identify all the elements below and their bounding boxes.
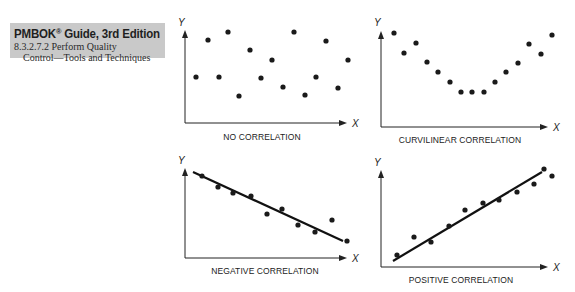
data-point	[205, 37, 210, 42]
data-point	[323, 38, 328, 43]
data-point	[496, 197, 501, 202]
data-point	[335, 85, 340, 90]
y-axis-arrow-icon	[182, 168, 188, 176]
data-point	[401, 50, 406, 55]
scatter-plot-negative-correlation: YXNEGATIVE CORRELATION	[178, 155, 359, 276]
data-point	[280, 84, 285, 89]
x-axis-label: X	[351, 253, 359, 264]
data-point	[313, 74, 318, 79]
plot-caption: NO CORRELATION	[223, 132, 300, 142]
data-point	[435, 69, 440, 74]
data-point	[258, 75, 263, 80]
data-point	[215, 184, 220, 189]
data-point	[538, 51, 543, 56]
data-point	[225, 29, 230, 34]
data-point	[291, 29, 296, 34]
y-axis-label: Y	[178, 155, 186, 166]
data-point	[469, 89, 474, 94]
x-axis-arrow-icon	[540, 124, 548, 130]
data-point	[462, 207, 467, 212]
data-point	[302, 92, 307, 97]
data-point	[193, 74, 198, 79]
data-point	[514, 189, 519, 194]
y-axis-arrow-icon	[378, 31, 384, 39]
data-point	[230, 190, 235, 195]
data-point	[199, 173, 204, 178]
plot-caption: CURVILINEAR CORRELATION	[399, 135, 521, 145]
plot-caption: NEGATIVE CORRELATION	[211, 266, 318, 276]
data-point	[480, 200, 485, 205]
data-point	[394, 252, 399, 257]
data-point	[312, 229, 317, 234]
data-point	[295, 222, 300, 227]
trend-line	[393, 172, 542, 261]
data-point	[411, 234, 416, 239]
plot-caption: POSITIVE CORRELATION	[409, 275, 513, 285]
data-point	[481, 89, 486, 94]
data-point	[264, 211, 269, 216]
data-point	[447, 79, 452, 84]
data-point	[549, 173, 554, 178]
scatter-diagrams: YXNO CORRELATIONYXCURVILINEAR CORRELATIO…	[0, 0, 575, 292]
data-point	[269, 57, 274, 62]
data-point	[247, 47, 252, 52]
data-point	[248, 193, 253, 198]
data-point	[391, 30, 396, 35]
data-point	[329, 217, 334, 222]
scatter-plot-positive-correlation: YXPOSITIVE CORRELATION	[374, 157, 560, 285]
y-axis-label: Y	[374, 157, 382, 168]
data-point	[515, 60, 520, 65]
data-point	[458, 89, 463, 94]
y-axis-label: Y	[374, 17, 382, 28]
data-point	[428, 239, 433, 244]
x-axis-arrow-icon	[339, 120, 347, 126]
y-axis-arrow-icon	[378, 170, 384, 178]
data-point	[236, 93, 241, 98]
x-axis-arrow-icon	[339, 255, 347, 261]
y-axis-arrow-icon	[182, 30, 188, 38]
data-point	[446, 223, 451, 228]
scatter-plot-no-correlation: YXNO CORRELATION	[178, 17, 359, 142]
data-point	[531, 181, 536, 186]
trend-line	[193, 172, 343, 241]
data-point	[526, 41, 531, 46]
y-axis-label: Y	[178, 17, 186, 28]
x-axis-label: X	[351, 118, 359, 129]
data-point	[549, 32, 554, 37]
data-point	[492, 79, 497, 84]
data-point	[216, 74, 221, 79]
data-point	[424, 59, 429, 64]
data-point	[503, 69, 508, 74]
data-point	[541, 166, 546, 171]
x-axis-label: X	[552, 262, 560, 273]
data-point	[345, 57, 350, 62]
data-point	[344, 238, 349, 243]
x-axis-label: X	[552, 122, 560, 133]
data-point	[413, 40, 418, 45]
x-axis-arrow-icon	[540, 264, 548, 270]
data-point	[279, 206, 284, 211]
scatter-plot-curvilinear-correlation: YXCURVILINEAR CORRELATION	[374, 17, 560, 145]
